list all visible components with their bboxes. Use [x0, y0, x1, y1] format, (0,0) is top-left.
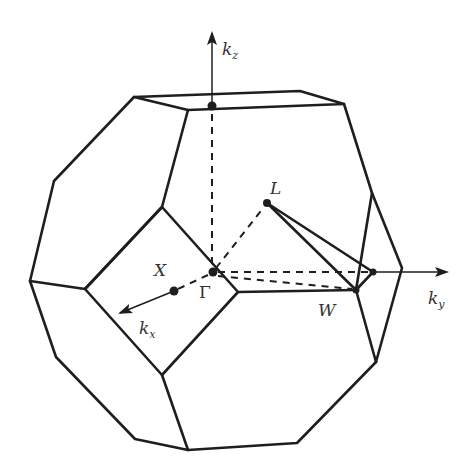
- kx-axis-arrow: [120, 291, 174, 313]
- brillouin-zone-diagram: kz ky kx X Γ L W: [0, 0, 469, 471]
- L-point: [263, 199, 271, 207]
- ky-label: ky: [428, 288, 445, 311]
- X-point: [170, 287, 179, 296]
- W-label: W: [318, 300, 337, 320]
- hidden-edges: [178, 114, 370, 289]
- K-point: [370, 269, 377, 276]
- bottom-edges: [188, 362, 376, 450]
- right-square-edges: [356, 193, 376, 362]
- lower-left-hexagon: [30, 281, 188, 450]
- L-K-edge: [267, 203, 373, 272]
- gamma-label: Γ: [199, 282, 211, 302]
- edge-to-W: [238, 290, 356, 292]
- top-X-point: [208, 102, 217, 111]
- symmetry-points: [170, 102, 377, 296]
- top-square-face: [134, 91, 344, 110]
- gamma-point: [209, 268, 218, 277]
- upper-right-edges: [344, 104, 402, 362]
- X-label: X: [152, 260, 167, 280]
- labels: kz ky kx X Γ L W: [139, 39, 445, 341]
- L-label: L: [269, 178, 281, 198]
- gamma-to-W-dashed: [218, 276, 352, 289]
- kz-label: kz: [222, 39, 238, 62]
- L-W-edge: [267, 203, 356, 290]
- kx-label: kx: [139, 318, 156, 341]
- front-square-face-X: [85, 207, 238, 375]
- gamma-to-L-dashed: [216, 207, 264, 268]
- W-point: [353, 287, 360, 294]
